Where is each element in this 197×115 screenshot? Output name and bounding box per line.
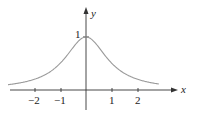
y-axis-arrow-icon	[84, 7, 89, 14]
x-tick-label: 2	[135, 94, 141, 106]
chart: −2 −1 1 2 1 x y	[0, 0, 197, 115]
x-tick-label: −2	[28, 94, 40, 106]
plot-area: −2 −1 1 2 1 x y	[0, 0, 197, 115]
y-axis-label: y	[90, 7, 96, 19]
curve-line	[8, 37, 159, 85]
x-axis-label: x	[180, 83, 186, 95]
y-tick-label: 1	[75, 28, 81, 40]
x-tick-label: −1	[54, 94, 66, 106]
x-axis-arrow-icon	[171, 88, 178, 93]
x-tick-label: 1	[109, 94, 115, 106]
